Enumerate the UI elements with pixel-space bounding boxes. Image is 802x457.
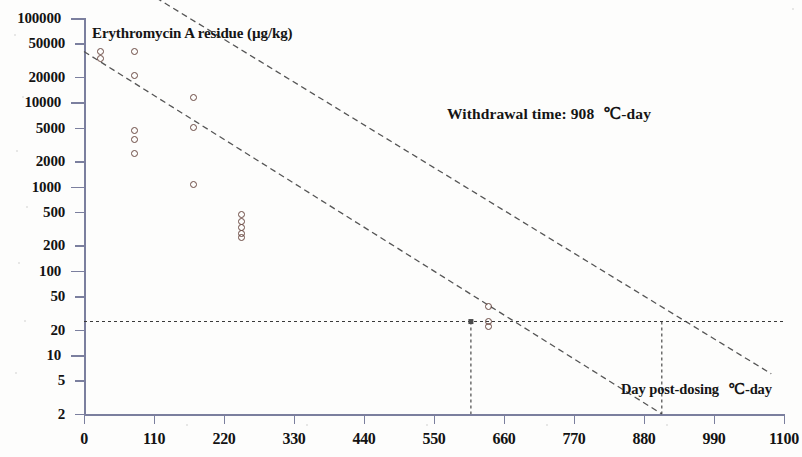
y-axis-tick: 10000 [71, 102, 84, 104]
x-axis-tick-label: 220 [212, 430, 235, 448]
data-point [485, 303, 492, 310]
data-point [131, 72, 138, 79]
data-point [131, 150, 138, 157]
x-axis-tick [154, 414, 155, 424]
scan-speckle [22, 96, 24, 98]
scan-speckle [18, 262, 20, 264]
y-axis-tick: 20 [75, 330, 84, 331]
y-axis-tick: 500 [75, 212, 84, 213]
x-axis-title: Day post-dosing℃-day [621, 381, 772, 398]
y-axis-tick-label: 500 [43, 203, 65, 220]
x-axis-tick-label: 990 [702, 430, 725, 448]
y-axis-tick: 20000 [75, 77, 84, 78]
x-axis-title-unit: ℃-day [728, 381, 772, 397]
x-axis-tick-label: 440 [352, 430, 375, 448]
y-axis-tick-label: 100 [39, 262, 61, 279]
x-axis-tick [84, 414, 85, 424]
data-point [485, 323, 492, 330]
x-axis-tick-label: 330 [282, 430, 305, 448]
y-axis-tick: 10 [71, 355, 84, 357]
chart-container: 2510205010020050010002000500010000200005… [0, 0, 802, 457]
data-point [190, 124, 197, 131]
scan-speckle [186, 424, 188, 426]
scan-speckle [666, 424, 668, 426]
y-axis-tick-label: 10 [46, 347, 61, 364]
scan-speckle [306, 424, 308, 426]
x-axis-tick-label: 110 [143, 430, 165, 448]
x-axis-tick [574, 414, 575, 424]
x-axis-tick [294, 414, 295, 424]
y-axis-tick: 50 [75, 296, 84, 297]
scan-speckle [15, 372, 17, 374]
y-axis-tick-label: 5 [58, 372, 65, 389]
x-axis-tick-label: 550 [422, 430, 445, 448]
y-axis-tick-label: 1000 [32, 178, 61, 195]
data-point [238, 211, 245, 218]
y-axis-tick: 200 [75, 245, 84, 246]
y-axis-tick-label: 2 [58, 406, 65, 423]
data-point [131, 127, 138, 134]
y-axis-tick-label: 50000 [28, 35, 65, 52]
x-axis-tick-label: 770 [562, 430, 585, 448]
withdrawal-time-unit: ℃-day [603, 105, 651, 122]
y-axis-line [84, 18, 86, 414]
y-axis-tick-label: 10000 [24, 94, 61, 111]
y-axis-tick: 50000 [75, 43, 84, 44]
scan-speckle [26, 206, 28, 208]
scan-speckle [770, 440, 772, 442]
y-axis-tick: 100000 [71, 18, 84, 20]
y-axis-tick: 5000 [75, 128, 84, 129]
data-point [97, 48, 104, 55]
x-axis-tick [434, 414, 435, 424]
x-axis-tick [504, 414, 505, 424]
y-axis-tick: 2000 [75, 161, 84, 162]
data-point [190, 94, 197, 101]
y-axis-title: Erythromycin A residue (µg/kg) [92, 25, 293, 42]
withdrawal-time-annotation: Withdrawal time: 908℃-day [447, 105, 651, 123]
y-axis-tick-label: 5000 [36, 119, 65, 136]
withdrawal-time-text: Withdrawal time: 908 [447, 105, 594, 122]
y-axis-tick-label: 20 [50, 321, 65, 338]
scan-speckle [14, 34, 16, 36]
scan-speckle [16, 150, 18, 152]
y-axis-tick-label: 100000 [17, 10, 61, 27]
data-point [131, 136, 138, 143]
y-axis-tick-label: 200 [43, 237, 65, 254]
y-axis-tick-label: 2000 [36, 153, 65, 170]
intersection-marker [468, 319, 473, 324]
x-axis-tick [644, 414, 645, 424]
x-axis-title-main: Day post-dosing [621, 381, 719, 397]
scan-speckle [426, 424, 428, 426]
data-point [190, 181, 197, 188]
x-axis-tick [784, 414, 785, 424]
y-axis-tick-label: 50 [50, 288, 65, 305]
x-axis-tick [714, 414, 715, 424]
data-point [131, 48, 138, 55]
scan-speckle [792, 8, 794, 10]
data-point [97, 55, 104, 62]
data-point [238, 234, 245, 241]
plot-area: 2510205010020050010002000500010000200005… [84, 18, 784, 414]
scan-speckle [546, 424, 548, 426]
scan-speckle [24, 320, 26, 322]
reference-lines-layer [84, 18, 784, 414]
x-axis-tick-label: 880 [632, 430, 655, 448]
y-axis-tick-label: 20000 [28, 68, 65, 85]
y-axis-tick: 5 [75, 380, 84, 381]
y-axis-tick: 2 [75, 414, 84, 415]
y-axis-tick: 1000 [71, 187, 84, 189]
tolerance-limit-line [148, 0, 772, 374]
x-axis-tick [224, 414, 225, 424]
x-axis-tick [364, 414, 365, 424]
x-axis-tick-label: 660 [492, 430, 515, 448]
x-axis-tick-label: 0 [80, 430, 88, 448]
x-axis-tick-label: 1100 [769, 430, 799, 448]
y-axis-tick: 100 [71, 271, 84, 273]
